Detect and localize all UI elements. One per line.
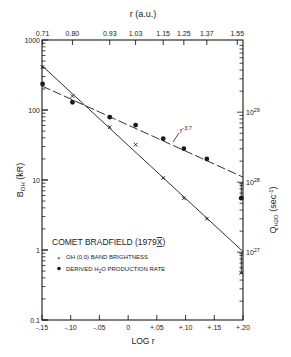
- dot-data-point: [70, 100, 75, 105]
- dot-marker-icon: [57, 267, 61, 271]
- power-law-annotation: r-3.7: [173, 125, 192, 142]
- x-tick-label: -.15: [36, 324, 48, 331]
- fit-lines: [42, 66, 243, 252]
- y-tick-label: 1000: [24, 37, 40, 44]
- right-tick-label: 1028: [246, 177, 260, 187]
- x-marker-icon: ×: [57, 255, 61, 261]
- svg-text:r-3.7: r-3.7: [180, 125, 192, 134]
- chart-title: COMET BRADFIELD (1979X): [52, 237, 165, 247]
- svg-text:BOH (kR): BOH (kR): [15, 163, 26, 198]
- top-tick-label: 1.03: [129, 30, 143, 37]
- x-data-point: [161, 176, 165, 180]
- x-tick-label: -.10: [65, 324, 77, 331]
- right-axis-title: QH2O (sec-1): [268, 186, 279, 233]
- top-tick-label: 1.15: [156, 30, 170, 37]
- y-tick-label: 1: [36, 247, 40, 254]
- right-tick-label: 1027: [246, 247, 260, 256]
- dot-data-point: [161, 136, 166, 141]
- legend-item-oh: × OH (0,0) BAND BRIGHTNESS: [57, 254, 148, 261]
- plot-border: [42, 40, 243, 320]
- dot-data-point: [107, 115, 112, 120]
- legend-item-h2o: DERIVED H2O PRODUCTION RATE: [57, 266, 165, 274]
- x-tick-label: +.05: [150, 324, 164, 331]
- chart: -.15-.10-.050+.05+.10+.15+.200.710.800.9…: [0, 0, 291, 357]
- top-tick-label: 1.37: [200, 30, 214, 37]
- x-data-point: [134, 143, 138, 147]
- axis-ticks: [42, 40, 243, 320]
- axis-tick-labels: -.15-.10-.050+.05+.10+.15+.200.710.800.9…: [24, 30, 260, 331]
- dot-data-point: [181, 146, 186, 151]
- top-tick-label: 0.80: [66, 30, 80, 37]
- right-tick-label: 1029: [246, 107, 260, 117]
- y-tick-label: 0.1: [30, 317, 40, 324]
- top-tick-label: 1.25: [177, 30, 191, 37]
- x-tick-label: 0: [126, 324, 130, 331]
- plot-frame: [42, 40, 243, 320]
- legend: × OH (0,0) BAND BRIGHTNESS DERIVED H2O P…: [57, 254, 165, 274]
- x-tick-label: +.10: [179, 324, 193, 331]
- dot-data-point: [204, 157, 209, 162]
- oh-fit-line: [42, 66, 243, 252]
- top-tick-label: 0.93: [103, 30, 117, 37]
- dot-data-point: [40, 81, 45, 86]
- svg-text:DERIVED H2O PRODUCTION RATE: DERIVED H2O PRODUCTION RATE: [66, 266, 165, 274]
- top-axis-title: r (a.u.): [130, 9, 157, 19]
- top-tick-label: 1.55: [230, 30, 244, 37]
- y-tick-label: 100: [28, 107, 40, 114]
- dot-data-point: [133, 123, 138, 128]
- x-tick-label: +.20: [236, 324, 250, 331]
- left-axis-title: BOH (kR): [15, 163, 26, 198]
- svg-text:OH (0,0) BAND BRIGHTNESS: OH (0,0) BAND BRIGHTNESS: [66, 254, 148, 260]
- y-tick-label: 10: [32, 177, 40, 184]
- x-tick-label: +.15: [207, 324, 221, 331]
- x-data-point: [71, 94, 75, 98]
- bottom-axis-title: LOG r: [131, 336, 154, 346]
- svg-text:QH2O (sec-1): QH2O (sec-1): [268, 186, 279, 233]
- x-tick-label: -.05: [93, 324, 105, 331]
- h2o-fit-line: [42, 86, 243, 177]
